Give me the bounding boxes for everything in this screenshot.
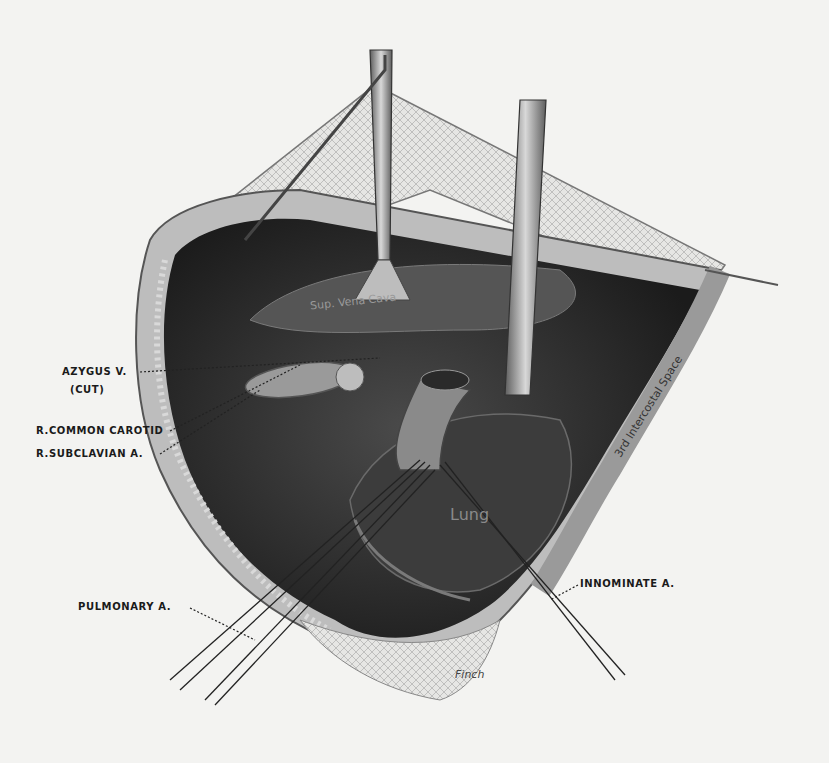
label-pulmonary-artery: PULMONARY A. xyxy=(78,601,171,612)
innominate-lumen xyxy=(421,370,469,390)
label-common-carotid: R.COMMON CAROTID xyxy=(36,425,164,436)
label-subclavian: R.SUBCLAVIAN A. xyxy=(36,448,143,459)
leader-pulmonary xyxy=(190,608,255,640)
artist-signature: Finch xyxy=(455,668,484,681)
azygus-cut-end xyxy=(336,363,364,391)
surgical-illustration xyxy=(0,0,829,763)
label-azygus-vein: AZYGUS V. xyxy=(62,366,127,377)
label-innominate-artery: INNOMINATE A. xyxy=(580,578,675,589)
label-azygus-cut: (CUT) xyxy=(70,384,104,395)
label-lung: Lung xyxy=(450,505,489,524)
